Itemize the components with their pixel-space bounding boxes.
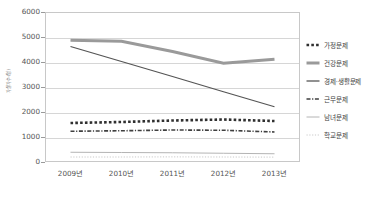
legend-item-label: 경제·생활문제 (324, 76, 361, 86)
x-axis-tick-label: 2012년 (201, 168, 247, 178)
y-axis-tickmark (41, 137, 45, 138)
legend-marker-icon (306, 113, 320, 121)
legend-item-label: 남녀문제 (324, 112, 348, 122)
legend-item-label: 건강문제 (324, 58, 348, 68)
y-axis-tick-label: 4000 (12, 58, 40, 65)
legend-marker-icon (306, 77, 320, 85)
series-line (71, 120, 275, 124)
y-axis-tick-labels: 0100020003000400050006000 (8, 0, 40, 198)
chart-legend: 가정문제건강문제경제·생활문제근무문제남녀문제학교문제 (306, 36, 372, 144)
y-axis-tickmark (41, 87, 45, 88)
series-overlay (45, 12, 300, 162)
legend-item[interactable]: 건강문제 (306, 54, 372, 72)
legend-item[interactable]: 남녀문제 (306, 108, 372, 126)
y-axis-tick-label: 6000 (12, 8, 40, 15)
y-axis-tick-label: 5000 (12, 33, 40, 40)
series-line (71, 47, 275, 107)
y-axis-tick-label: 1000 (12, 133, 40, 140)
legend-item-label: 가정문제 (324, 40, 348, 50)
legend-marker-icon (306, 95, 320, 103)
legend-marker-icon (306, 41, 320, 49)
y-axis-tickmark (41, 37, 45, 38)
legend-item-label: 학교문제 (324, 130, 348, 140)
legend-item[interactable]: 근무문제 (306, 90, 372, 108)
legend-marker-icon (306, 131, 320, 139)
series-line (71, 130, 275, 132)
y-axis-tick-label: 3000 (12, 83, 40, 90)
legend-item[interactable]: 학교문제 (306, 126, 372, 144)
series-line (71, 152, 275, 154)
legend-item-label: 근무문제 (324, 94, 348, 104)
y-axis-tickmark (41, 62, 45, 63)
x-axis-tick-label: 2009년 (48, 168, 94, 178)
y-axis-tick-label: 0 (12, 158, 40, 165)
legend-item[interactable]: 가정문제 (306, 36, 372, 54)
series-line (71, 40, 275, 63)
y-axis-tickmark (41, 112, 45, 113)
x-axis-tick-labels: 2009년2010년2011년2012년2013년 (45, 168, 300, 182)
x-axis-tick-label: 2013년 (252, 168, 298, 178)
line-chart: 자살자수(명) 0100020003000400050006000 2009년2… (0, 0, 373, 198)
y-axis-tickmark (41, 162, 45, 163)
y-axis-tickmark (41, 12, 45, 13)
y-axis-tick-label: 2000 (12, 108, 40, 115)
x-axis-tick-label: 2011년 (150, 168, 196, 178)
x-axis-tick-label: 2010년 (99, 168, 145, 178)
legend-marker-icon (306, 59, 320, 67)
legend-item[interactable]: 경제·생활문제 (306, 72, 372, 90)
